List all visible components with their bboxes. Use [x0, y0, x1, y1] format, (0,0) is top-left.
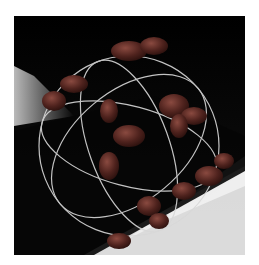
- molecular-sphere-image: [14, 16, 245, 255]
- render-svg: [14, 16, 245, 255]
